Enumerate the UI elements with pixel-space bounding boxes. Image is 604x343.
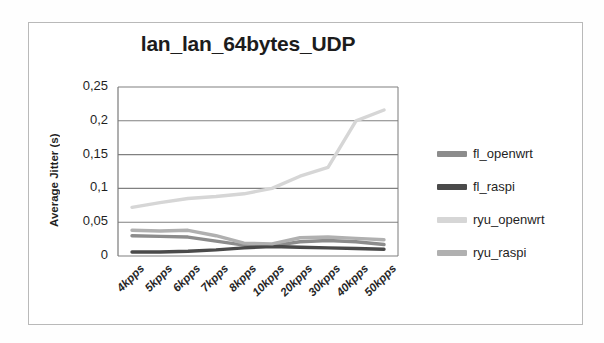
legend-item-ryu_openwrt[interactable]: ryu_openwrt bbox=[437, 206, 577, 233]
chart-legend: fl_openwrtfl_raspiryu_openwrtryu_raspi bbox=[437, 140, 577, 272]
legend-swatch-icon bbox=[437, 217, 467, 223]
legend-swatch-icon bbox=[437, 250, 467, 256]
series-lines bbox=[132, 110, 384, 252]
legend-swatch-icon bbox=[437, 151, 467, 157]
y-tick-label: 0,15 bbox=[60, 146, 108, 161]
legend-swatch-icon bbox=[437, 184, 467, 190]
legend-item-fl_openwrt[interactable]: fl_openwrt bbox=[437, 140, 577, 167]
series-line-fl_raspi bbox=[132, 247, 384, 252]
y-tick-label: 0,2 bbox=[60, 112, 108, 127]
legend-label: ryu_openwrt bbox=[473, 212, 545, 227]
legend-label: fl_raspi bbox=[473, 179, 515, 194]
y-tick-label: 0,05 bbox=[60, 213, 108, 228]
legend-label: ryu_raspi bbox=[473, 245, 526, 260]
y-tick-label: 0,25 bbox=[60, 78, 108, 93]
y-tick-label: 0,1 bbox=[60, 179, 108, 194]
series-line-ryu_openwrt bbox=[132, 110, 384, 207]
legend-item-ryu_raspi[interactable]: ryu_raspi bbox=[437, 239, 577, 266]
chart-figure: lan_lan_64bytes_UDP Average Jitter (s) 0… bbox=[0, 0, 604, 343]
y-tick-label: 0 bbox=[60, 247, 108, 262]
legend-label: fl_openwrt bbox=[473, 146, 533, 161]
legend-item-fl_raspi[interactable]: fl_raspi bbox=[437, 173, 577, 200]
